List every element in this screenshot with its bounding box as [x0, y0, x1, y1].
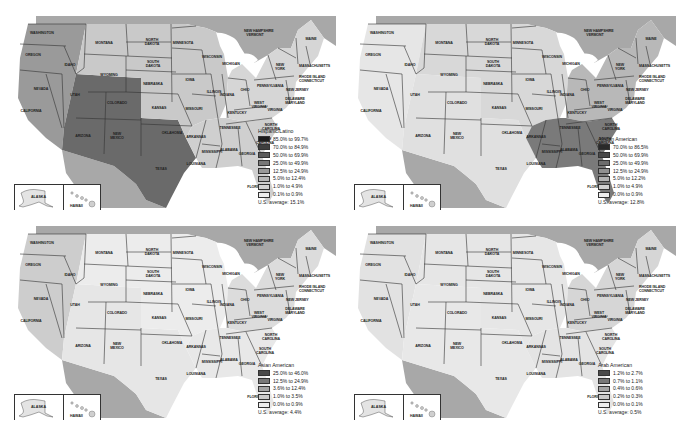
hawaii-inset: HAWAII — [403, 184, 441, 210]
state-label: NORTHCAROLINA — [600, 334, 622, 341]
alaska-label: ALASKA — [371, 195, 386, 199]
state-label: MINNESOTA — [172, 42, 194, 46]
state-label: NEWYORK — [609, 64, 631, 71]
state-label: IDAHO — [399, 64, 421, 68]
state-label: TENNESSEE — [219, 127, 241, 131]
state-label: MICHIGAN — [220, 63, 242, 67]
state-label: KENTUCKY — [566, 322, 588, 326]
legend-item: 12.5% to 24.9% — [258, 377, 308, 385]
legend-rows: 70.0% to 86.5%50.0% to 69.9%25.0% to 49.… — [598, 143, 648, 198]
state-label: NEW HAMPSHIREVERMONT — [244, 240, 266, 247]
map-panel-hispanic: WASHINGTONOREGONIDAHOMONTANAWYOMINGNORTH… — [6, 8, 336, 210]
legend-swatch — [258, 402, 270, 408]
legend-swatch — [598, 168, 610, 174]
state-label: NEBRASKA — [482, 83, 504, 87]
alaska-inset: ALASKA — [14, 394, 64, 420]
state-label: UTAH — [64, 304, 86, 308]
legend-title: Hispanic/Latino — [258, 129, 308, 134]
legend-item: 1.0% to 4.9% — [258, 183, 308, 191]
state-label: MASSACHUSETTS — [299, 65, 321, 69]
state-label: GEORGIA — [576, 153, 598, 157]
state-label: COLORADO — [106, 312, 128, 316]
map-panel-african: WASHINGTONOREGONIDAHOMONTANAWYOMINGNORTH… — [346, 8, 676, 210]
state-label: ARKANSAS — [185, 346, 207, 350]
state-label: SOUTHCAROLINA — [254, 348, 276, 355]
state-label: NEWYORK — [609, 274, 631, 281]
state-label: DELAWAREMARYLAND — [624, 308, 646, 315]
state-label: WISCONSIN — [541, 266, 563, 270]
state-label: IDAHO — [59, 64, 81, 68]
state-label: MONTANA — [93, 42, 115, 46]
state-label: NEBRASKA — [482, 293, 504, 297]
state-label: RHODE ISLANDCONNECTICUT — [639, 76, 661, 83]
state-label: WASHINGTON — [30, 242, 52, 246]
legend-swatch — [598, 176, 610, 182]
state-label: MAINE — [300, 248, 322, 252]
legend-item: 0.0% to 0.9% — [598, 191, 648, 199]
state-label: KANSAS — [148, 107, 170, 111]
state-label: OHIO — [234, 89, 256, 93]
state-label: WISCONSIN — [201, 56, 223, 60]
state-label: GEORGIA — [236, 363, 258, 367]
state-label: NEWMEXICO — [106, 133, 128, 140]
state-label: CALIFORNIA — [20, 320, 42, 324]
state-label: NEW JERSEY — [626, 299, 648, 303]
state-label: CALIFORNIA — [360, 110, 382, 114]
state-label: KENTUCKY — [226, 112, 248, 116]
legend-label: 0.0% to 0.1% — [613, 402, 643, 407]
state-label: UTAH — [64, 94, 86, 98]
legend-swatch — [598, 144, 610, 150]
state-label: WESTVIRGINIA — [248, 102, 270, 109]
legend-average: U.S. average: 15.1% — [258, 200, 308, 205]
legend-label: 25.0% to 49.9% — [613, 161, 648, 166]
state-label: DELAWAREMARYLAND — [284, 308, 306, 315]
state-label: IDAHO — [399, 274, 421, 278]
state-label: MAINE — [640, 38, 662, 42]
state-label: TENNESSEE — [219, 337, 241, 341]
legend-swatch — [258, 176, 270, 182]
legend-swatch — [598, 378, 610, 384]
state-label: OREGON — [362, 54, 384, 58]
state-label: KENTUCKY — [566, 112, 588, 116]
state-label: ARKANSAS — [525, 136, 547, 140]
state-label: MINNESOTA — [172, 252, 194, 256]
state-label: ARIZONA — [72, 345, 94, 349]
legend-title: Asian American — [258, 363, 308, 368]
state-label: MICHIGAN — [220, 273, 242, 277]
legend-label: 25.0% to 46.0% — [273, 371, 308, 376]
state-label: SOUTHDAKOTA — [482, 271, 504, 278]
legend-item: 25.0% to 49.9% — [258, 159, 308, 167]
state-label: MASSACHUSETTS — [639, 65, 661, 69]
state-label: TEXAS — [490, 378, 512, 382]
state-label: LOUISIANA — [185, 373, 207, 377]
state-label: OHIO — [234, 299, 256, 303]
legend-swatch — [598, 160, 610, 166]
legend-item: 12.5% to 24.9% — [598, 167, 648, 175]
legend-label: 70.0% to 84.9% — [273, 145, 308, 150]
state-label: PENNSYLVANIA — [257, 295, 279, 299]
legend-label: 0.0% to 0.9% — [613, 192, 643, 197]
state-label: PENNSYLVANIA — [257, 85, 279, 89]
state-label: NEW JERSEY — [286, 299, 308, 303]
state-label: MINNESOTA — [512, 42, 534, 46]
state-label: DELAWAREMARYLAND — [624, 98, 646, 105]
legend-swatch — [258, 192, 270, 198]
state-label: IOWA — [179, 289, 201, 293]
state-label: COLORADO — [446, 102, 468, 106]
legend-swatch — [598, 192, 610, 198]
hawaii-label: HAWAII — [70, 414, 83, 418]
state-label: CALIFORNIA — [20, 110, 42, 114]
legend-item: 3.6% to 12.4% — [258, 385, 308, 393]
legend-rows: 85.0% to 99.7%70.0% to 84.9%50.0% to 69.… — [258, 136, 308, 199]
legend-title: African American — [598, 137, 648, 142]
state-label: NEW HAMPSHIREVERMONT — [244, 30, 266, 37]
hawaii-inset: HAWAII — [63, 184, 101, 210]
legend-label: 5.0% to 12.2% — [613, 176, 646, 181]
legend-swatch — [258, 394, 270, 400]
state-label: IDAHO — [59, 274, 81, 278]
state-label: TEXAS — [150, 168, 172, 172]
legend-swatch — [598, 184, 610, 190]
state-label: WESTVIRGINIA — [588, 102, 610, 109]
state-label: VIRGINIA — [264, 319, 286, 323]
state-label: LOUISIANA — [525, 163, 547, 167]
